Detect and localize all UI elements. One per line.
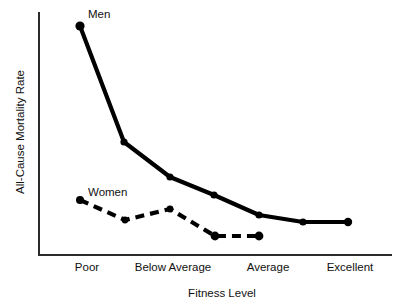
data-point-women-poor	[76, 196, 84, 204]
line-chart-canvas: Men Women Poor Below Average Average Exc…	[0, 0, 404, 307]
chart-axes	[39, 12, 392, 255]
x-tick-label-below-average: Below Average	[135, 261, 212, 273]
y-axis-title: All-Cause Mortality Rate	[14, 70, 26, 194]
data-point-men-average	[255, 211, 262, 218]
data-point-women-4	[211, 232, 220, 241]
x-tick-label-average: Average	[247, 261, 290, 273]
data-point-men-below-average	[166, 173, 173, 180]
x-tick-label-poor: Poor	[75, 261, 99, 273]
series-label-men: Men	[88, 8, 110, 20]
x-tick-label-excellent: Excellent	[327, 261, 374, 273]
data-point-men-excellent	[344, 218, 352, 226]
series-label-women: Women	[88, 186, 127, 198]
data-point-women-average	[255, 232, 264, 241]
x-axis-title: Fitness Level	[188, 287, 256, 299]
series-line-women	[80, 200, 259, 236]
data-point-women-2	[122, 217, 129, 224]
data-point-men-poor	[75, 21, 84, 30]
chart-figure: Men Women Poor Below Average Average Exc…	[0, 0, 404, 307]
data-point-men-6	[299, 218, 306, 225]
data-point-men-2	[120, 138, 127, 145]
data-point-women-below-average	[167, 206, 174, 213]
data-point-men-4	[210, 191, 217, 198]
